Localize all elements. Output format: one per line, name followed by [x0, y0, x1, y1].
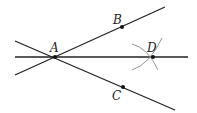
label-C: C: [112, 89, 121, 103]
point-D: [151, 55, 155, 59]
label-A: A: [49, 41, 59, 55]
label-D: D: [146, 41, 157, 55]
point-C: [121, 85, 125, 89]
label-B: B: [112, 13, 122, 27]
angle-bisector-diagram: ABCD: [0, 0, 197, 113]
lines-group: [15, 7, 188, 110]
labels-group: ABCD: [49, 13, 157, 103]
point-A: [53, 55, 57, 59]
